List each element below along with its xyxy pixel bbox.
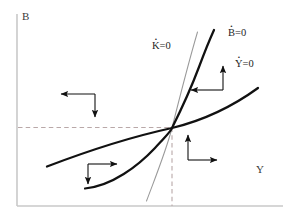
- y-dot-nullcline-label: Y=0: [235, 58, 254, 69]
- k-dot-nullcline-label: K=0: [152, 40, 171, 51]
- k-dot-equals-zero: =0: [160, 40, 171, 51]
- b-dot-equals-zero: =0: [235, 27, 246, 38]
- b-dot-variable: B: [228, 27, 235, 38]
- y-dot-equals-zero: =0: [243, 58, 254, 69]
- y-axis-label: B: [22, 10, 29, 22]
- phase-diagram-figure: B Y K=0 B=0 Y=0: [0, 0, 287, 224]
- arrow-cluster-upper-left: [61, 94, 95, 117]
- arrow-cluster-lower-right: [188, 135, 217, 160]
- k-dot-variable: K: [152, 40, 160, 51]
- x-axis-label: Y: [256, 163, 264, 175]
- y-dot-variable: Y: [235, 58, 243, 69]
- b-dot-nullcline-label: B=0: [228, 27, 246, 38]
- b-dot-nullcline-curve: [85, 30, 214, 189]
- axis-group: [17, 14, 283, 206]
